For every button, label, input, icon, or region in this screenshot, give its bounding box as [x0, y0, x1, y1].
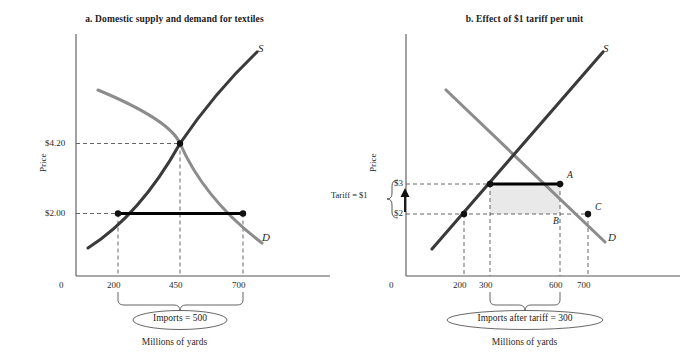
- panel-a-imports-brace: [118, 292, 243, 311]
- panel-b-y-axis-label: Price: [368, 154, 378, 173]
- panel-a-imports-callout: Imports = 500: [133, 313, 227, 323]
- panel-a-qs-point: [115, 210, 121, 216]
- panel-b-point-a-label: A: [567, 170, 573, 180]
- panel-a-x-axis-title: Millions of yards: [0, 337, 349, 347]
- panel-b-xtick-700: 700: [577, 280, 591, 290]
- panel-a-xtick-700: 700: [232, 280, 246, 290]
- panel-b-imports-callout: Imports after tariff = 300: [447, 313, 603, 323]
- panel-a-y-axis-label: Price: [38, 154, 48, 173]
- panel-b-point-c-label: C: [595, 202, 601, 212]
- panel-a-equilibrium-point: [177, 140, 183, 146]
- panel-b-point-c-marker: [585, 211, 591, 217]
- panel-b-qs-after-tariff-point: [487, 181, 493, 187]
- panel-domestic-supply-demand: a. Domestic supply and demand for textil…: [0, 0, 349, 356]
- panel-a-svg: [0, 0, 349, 356]
- panel-b-imports-brace: [490, 292, 560, 311]
- panel-b-point-b-label: B: [553, 216, 559, 226]
- panel-b-supply-curve: [432, 52, 603, 249]
- panel-b-demand-curve: [446, 90, 605, 242]
- panel-b-demand-label: D: [608, 231, 616, 243]
- panel-a-supply-label: S: [258, 42, 264, 54]
- panel-b-x-axis-title: Millions of yards: [350, 337, 699, 347]
- panel-a-qd-point: [240, 210, 246, 216]
- panel-a-xtick-200: 200: [107, 280, 121, 290]
- panel-a-demand-label: D: [262, 231, 270, 243]
- panel-b-xtick-600: 600: [549, 280, 563, 290]
- panel-a-ytick-420: $4.20: [45, 138, 65, 148]
- panel-a-plot: Price $4.20 $2.00 0 200 450 700 S D Impo…: [0, 0, 349, 356]
- panel-b-xtick-200: 200: [453, 280, 467, 290]
- panel-b-xtick-300: 300: [479, 280, 493, 290]
- panel-a-xtick-450: 450: [169, 280, 183, 290]
- panel-b-free-trade-qs-point: [461, 211, 467, 217]
- panel-tariff-effect: b. Effect of $1 tariff per unit: [350, 0, 699, 356]
- panel-b-point-a-marker: [557, 181, 563, 187]
- panel-b-plot: Price $3 $2 Tariff = $1 0 200 300 600 70…: [350, 0, 699, 356]
- panel-b-tariff-label: Tariff = $1: [331, 190, 368, 200]
- panel-b-tariff-arrow-head: [401, 188, 410, 197]
- panel-b-supply-label: S: [603, 42, 609, 54]
- panel-b-ytick-2: $2: [394, 208, 403, 218]
- panel-a-origin-label: 0: [59, 280, 64, 290]
- panel-a-ytick-200: $2.00: [45, 208, 65, 218]
- panel-b-ytick-3: $3: [394, 178, 403, 188]
- panel-b-origin-label: 0: [389, 280, 394, 290]
